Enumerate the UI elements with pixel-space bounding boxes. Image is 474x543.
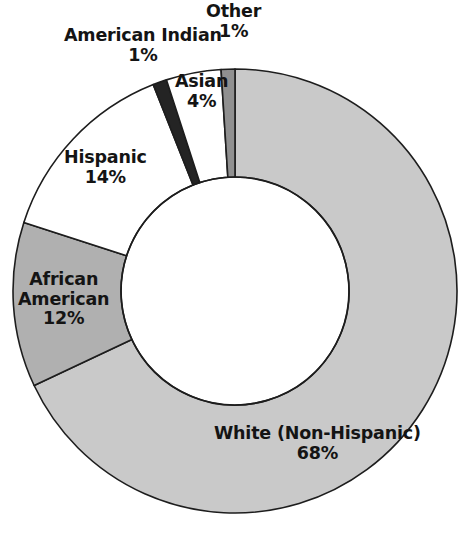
slice-label-american-indian-name: American Indian (64, 26, 222, 46)
slice-label-african-american-name-line1: African (18, 270, 109, 290)
slice-label-asian-name: Asian (175, 72, 228, 92)
slice-label-african-american: African American 12% (18, 270, 109, 329)
slice-label-white-non-hispanic-name: White (Non-Hispanic) (214, 424, 421, 444)
slice-label-hispanic: Hispanic 14% (64, 148, 147, 187)
slice-label-hispanic-name: Hispanic (64, 148, 147, 168)
slice-label-african-american-value: 12% (18, 309, 109, 329)
donut-chart: Other 1% American Indian 1% Asian 4% His… (0, 0, 474, 543)
slice-label-white-non-hispanic-value: 68% (214, 444, 421, 464)
slice-label-asian: Asian 4% (175, 72, 228, 111)
slice-label-white-non-hispanic: White (Non-Hispanic) 68% (214, 424, 421, 463)
slice-label-other-name: Other (206, 2, 261, 22)
slice-label-american-indian: American Indian 1% (64, 26, 222, 65)
slice-label-asian-value: 4% (175, 92, 228, 112)
donut-center-hole (121, 177, 349, 405)
slice-label-hispanic-value: 14% (64, 168, 147, 188)
slice-label-american-indian-value: 1% (64, 46, 222, 66)
slice-label-african-american-name-line2: American (18, 290, 109, 310)
